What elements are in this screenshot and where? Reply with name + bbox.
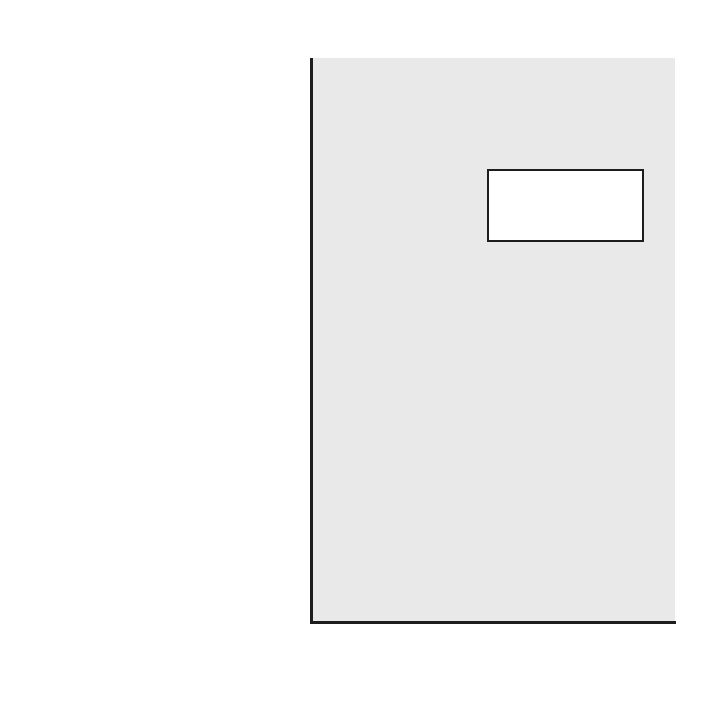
y-axis-line [310,58,313,624]
plot-area [311,58,675,621]
legend-swatch-aquatic [500,209,522,231]
bar-chart [0,0,717,703]
legend-item-terrestrial [500,179,532,201]
legend-swatch-terrestrial [500,179,522,201]
legend [487,169,644,242]
x-axis-line [310,621,676,624]
legend-item-aquatic [500,209,532,231]
